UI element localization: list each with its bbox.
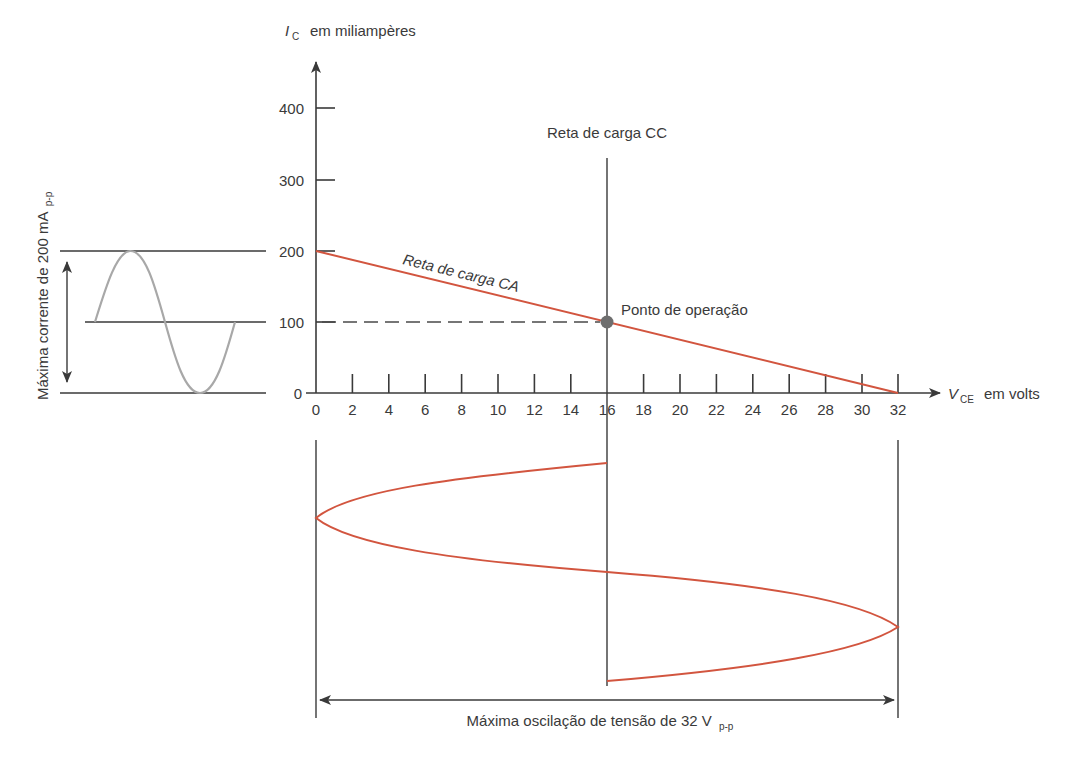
y-tick-label: 0	[294, 385, 302, 402]
y-tick-label: 100	[279, 314, 304, 331]
svg-text:14: 14	[562, 401, 579, 418]
svg-text:24: 24	[744, 401, 761, 418]
svg-text:0: 0	[312, 401, 320, 418]
y-tick-label: 300	[279, 172, 304, 189]
operating-point-marker	[601, 316, 614, 329]
svg-text:20: 20	[672, 401, 689, 418]
svg-text:26: 26	[781, 401, 798, 418]
ac-load-line-figure: I C em miliampères 400 300 200 100 0 0	[0, 0, 1078, 757]
svg-text:32: 32	[890, 401, 907, 418]
current-swing-diagram: Máxima corrente de 200 mA p-p	[34, 191, 266, 400]
svg-text:4: 4	[385, 401, 393, 418]
svg-text:6: 6	[421, 401, 429, 418]
ac-load-line-label: Reta de carga CA	[401, 250, 521, 295]
y-axis-ticks: 400 300 200 100 0	[279, 100, 335, 402]
svg-text:em miliampères: em miliampères	[310, 22, 416, 39]
svg-text:I: I	[285, 22, 289, 39]
svg-text:C: C	[292, 31, 299, 42]
y-tick-label: 400	[279, 100, 304, 117]
svg-text:V: V	[948, 385, 960, 402]
x-axis-title: V CE em volts	[948, 385, 1040, 405]
svg-text:22: 22	[708, 401, 725, 418]
svg-text:em volts: em volts	[984, 385, 1040, 402]
svg-text:10: 10	[490, 401, 507, 418]
svg-text:12: 12	[526, 401, 543, 418]
svg-text:2: 2	[348, 401, 356, 418]
svg-text:18: 18	[635, 401, 652, 418]
svg-text:8: 8	[457, 401, 465, 418]
dc-load-line-label: Reta de carga CC	[547, 124, 667, 141]
y-tick-label: 200	[279, 243, 304, 260]
y-axis-title: I C em miliampères	[285, 22, 416, 42]
cropped-caption-area	[0, 745, 1078, 757]
svg-text:CE: CE	[960, 394, 974, 405]
x-axis-ticks: 0 2 4 6 8 10 12 14 16 18 20 22 24 26 28 …	[312, 374, 907, 418]
svg-text:28: 28	[817, 401, 834, 418]
svg-text:30: 30	[854, 401, 871, 418]
current-swing-label: Máxima corrente de 200 mA p-p	[34, 191, 54, 400]
operating-point-label: Ponto de operação	[621, 301, 748, 318]
voltage-swing-label: Máxima oscilação de tensão de 32 V p-p	[467, 712, 734, 732]
